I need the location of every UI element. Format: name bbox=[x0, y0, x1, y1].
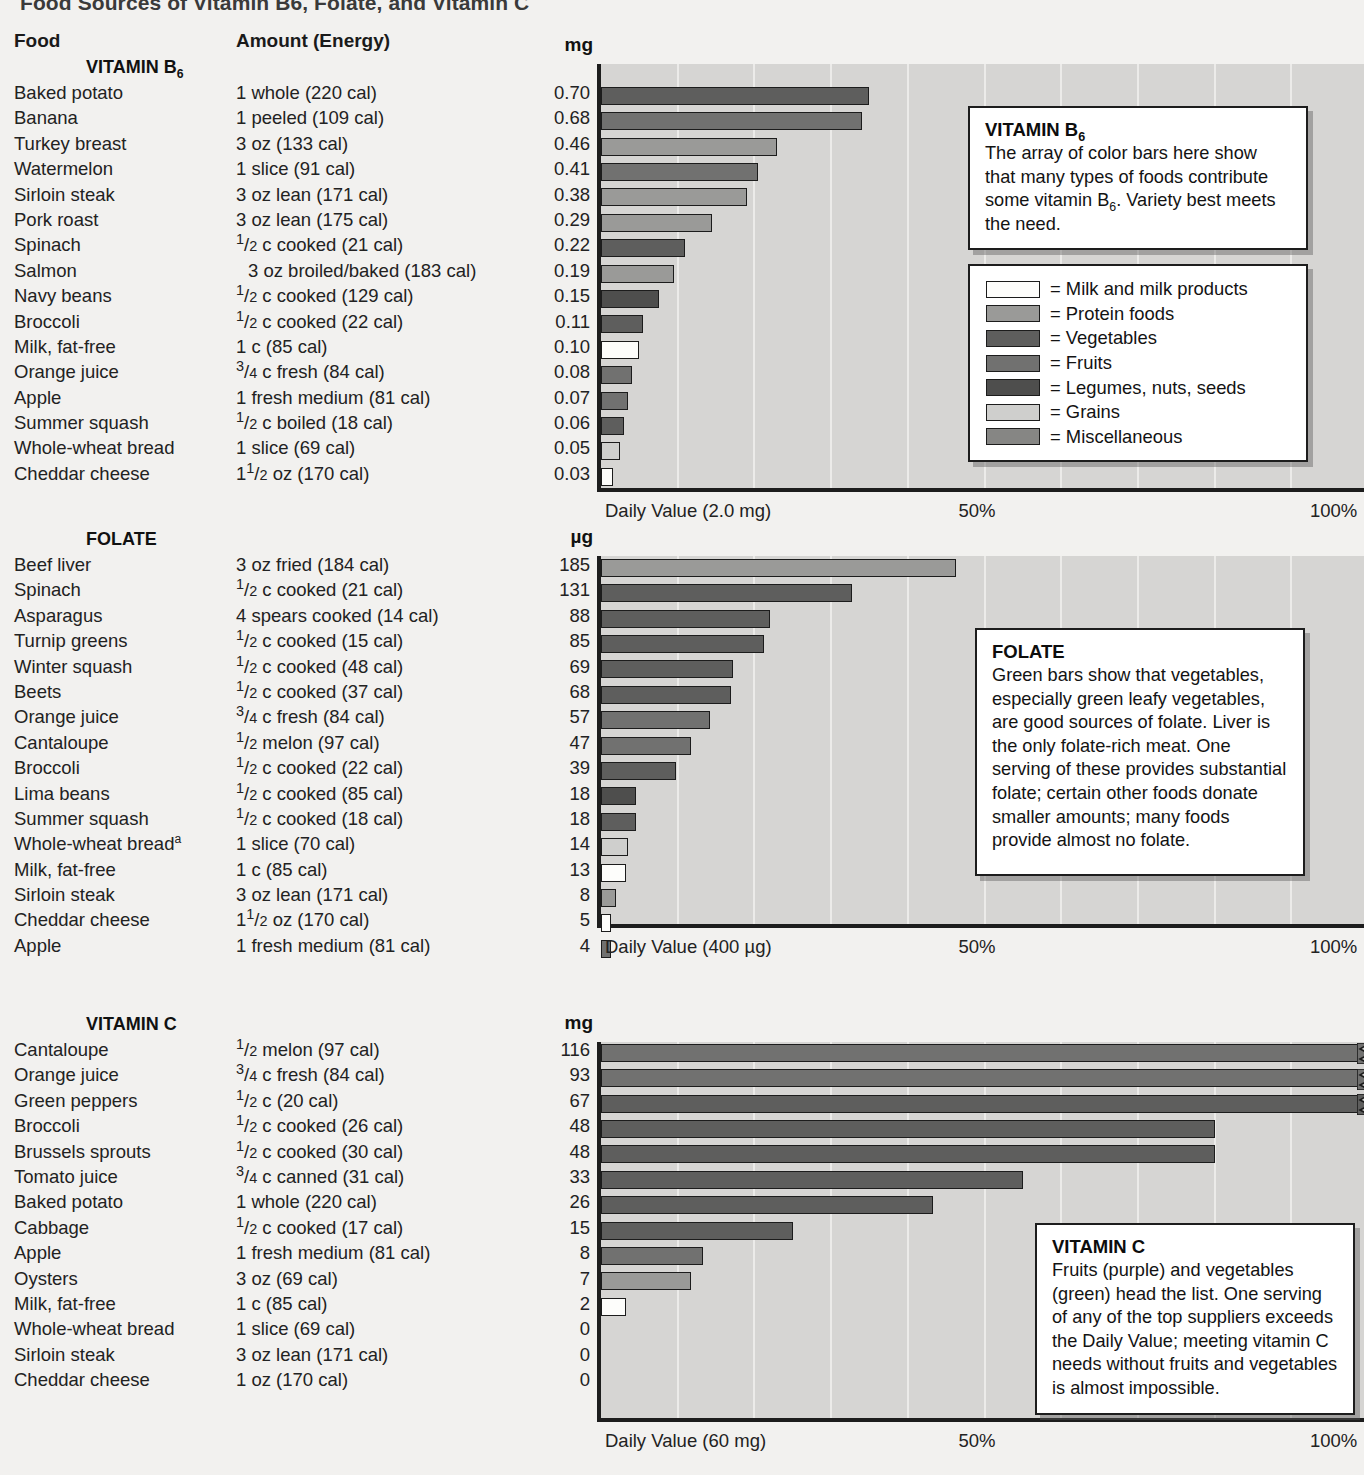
food-name: Orange juice bbox=[14, 704, 119, 729]
table-row: Broccoli1/2 c cooked (22 cal)39 bbox=[0, 755, 590, 780]
food-amount: 1/2 melon (97 cal) bbox=[236, 730, 380, 757]
nutrient-value: 0.06 bbox=[510, 410, 590, 435]
bar bbox=[601, 188, 747, 206]
nutrient-value: 7 bbox=[510, 1266, 590, 1291]
bar bbox=[601, 1298, 626, 1316]
nutrient-value: 39 bbox=[510, 755, 590, 780]
table-row: Broccoli1/2 c cooked (22 cal)0.11 bbox=[0, 309, 590, 334]
food-name: Apple bbox=[14, 933, 61, 958]
daily-value-label: Daily Value (60 mg) bbox=[605, 1430, 766, 1452]
legend-swatch-legumes bbox=[986, 379, 1040, 396]
legend-swatch-vegetables bbox=[986, 330, 1040, 347]
table-row: Tomato juice3/4 c canned (31 cal)33 bbox=[0, 1164, 590, 1189]
group-title: VITAMIN C bbox=[0, 1013, 590, 1037]
nutrient-value: 14 bbox=[510, 831, 590, 856]
nutrient-value: 116 bbox=[510, 1037, 590, 1062]
unit-label: mg bbox=[533, 34, 593, 56]
food-amount: 3/4 c fresh (84 cal) bbox=[236, 1062, 385, 1089]
nutrient-value: 0.46 bbox=[510, 131, 590, 156]
table-row: Turnip greens1/2 c cooked (15 cal)85 bbox=[0, 628, 590, 653]
nutrient-value: 0.22 bbox=[510, 232, 590, 257]
nutrient-value: 0.10 bbox=[510, 334, 590, 359]
nutrient-value: 2 bbox=[510, 1291, 590, 1316]
bar bbox=[601, 1069, 1358, 1087]
table-row: Lima beans1/2 c cooked (85 cal)18 bbox=[0, 781, 590, 806]
legend-item: = Miscellaneous bbox=[986, 425, 1292, 450]
food-name: Winter squash bbox=[14, 654, 132, 679]
food-name: Sirloin steak bbox=[14, 1342, 115, 1367]
bar bbox=[601, 711, 710, 729]
food-name: Sirloin steak bbox=[14, 882, 115, 907]
bar bbox=[601, 468, 613, 486]
legend-item: = Legumes, nuts, seeds bbox=[986, 375, 1292, 400]
bar bbox=[601, 635, 764, 653]
bar bbox=[601, 1145, 1215, 1163]
food-amount: 3 oz lean (175 cal) bbox=[236, 207, 388, 232]
food-name: Cantaloupe bbox=[14, 1037, 109, 1062]
chart-page: Food Sources of Vitamin B6, Folate, and … bbox=[0, 0, 1364, 1475]
legend-swatch-fruits bbox=[986, 355, 1040, 372]
daily-value-label: Daily Value (400 µg) bbox=[605, 936, 772, 958]
table-row: Spinach1/2 c cooked (21 cal)0.22 bbox=[0, 232, 590, 257]
nutrient-value: 0.70 bbox=[510, 80, 590, 105]
food-name: Summer squash bbox=[14, 806, 149, 831]
group-title: FOLATE bbox=[0, 528, 590, 552]
nutrient-value: 0.11 bbox=[510, 309, 590, 334]
food-name: Baked potato bbox=[14, 1189, 123, 1214]
food-amount: 1/2 c cooked (129 cal) bbox=[236, 283, 414, 310]
table-row: Asparagus4 spears cooked (14 cal)88 bbox=[0, 603, 590, 628]
bar bbox=[601, 813, 636, 831]
legend-swatch-milk bbox=[986, 281, 1040, 298]
food-amount: 3 oz lean (171 cal) bbox=[236, 882, 388, 907]
bar bbox=[601, 1196, 933, 1214]
bar bbox=[601, 889, 616, 907]
nutrient-value: 5 bbox=[510, 907, 590, 932]
nutrient-value: 0.68 bbox=[510, 105, 590, 130]
nutrient-value: 18 bbox=[510, 781, 590, 806]
table-row: Pork roast3 oz lean (175 cal)0.29 bbox=[0, 207, 590, 232]
nutrient-value: 57 bbox=[510, 704, 590, 729]
table-row: Turkey breast3 oz (133 cal)0.46 bbox=[0, 131, 590, 156]
table-row: Navy beans1/2 c cooked (129 cal)0.15 bbox=[0, 283, 590, 308]
food-amount: 1/2 c cooked (37 cal) bbox=[236, 679, 403, 706]
food-name: Apple bbox=[14, 1240, 61, 1265]
nutrient-value: 0.19 bbox=[510, 258, 590, 283]
table-row: Winter squash1/2 c cooked (48 cal)69 bbox=[0, 654, 590, 679]
food-amount: 1 slice (69 cal) bbox=[236, 1316, 355, 1341]
bar bbox=[601, 214, 712, 232]
bar bbox=[601, 1222, 793, 1240]
page-title: Food Sources of Vitamin B6, Folate, and … bbox=[20, 0, 529, 15]
table-row: Green peppers1/2 c (20 cal)67 bbox=[0, 1088, 590, 1113]
table-row: Apple1 fresh medium (81 cal)0.07 bbox=[0, 385, 590, 410]
food-amount: 1 fresh medium (81 cal) bbox=[236, 933, 430, 958]
table-row: Cheddar cheese1 oz (170 cal)0 bbox=[0, 1367, 590, 1392]
legend-item: = Vegetables bbox=[986, 326, 1292, 351]
callout-heading: VITAMIN B6 bbox=[985, 119, 1292, 141]
food-amount: 1/2 c cooked (15 cal) bbox=[236, 628, 403, 655]
food-name: Watermelon bbox=[14, 156, 113, 181]
food-name: Beef liver bbox=[14, 552, 91, 577]
callout-body: Green bars show that vegetables, especia… bbox=[992, 664, 1289, 853]
food-name: Cheddar cheese bbox=[14, 907, 150, 932]
callout-body: Fruits (purple) and vegetables (green) h… bbox=[1052, 1259, 1339, 1401]
table-row: Apple1 fresh medium (81 cal)8 bbox=[0, 1240, 590, 1265]
legend-swatch-protein bbox=[986, 305, 1040, 322]
legend-label: = Milk and milk products bbox=[1050, 278, 1248, 300]
food-table: VITAMIN B6Baked potato1 whole (220 cal)0… bbox=[0, 56, 590, 486]
table-row: Summer squash1/2 c cooked (18 cal)18 bbox=[0, 806, 590, 831]
table-row: Summer squash1/2 c boiled (18 cal)0.06 bbox=[0, 410, 590, 435]
food-name: Whole-wheat bread bbox=[14, 435, 174, 460]
nutrient-value: 0.08 bbox=[510, 359, 590, 384]
nutrient-value: 93 bbox=[510, 1062, 590, 1087]
food-name: Milk, fat-free bbox=[14, 334, 116, 359]
table-row: Sirloin steak3 oz lean (171 cal)8 bbox=[0, 882, 590, 907]
nutrient-value: 8 bbox=[510, 882, 590, 907]
food-amount: 1 c (85 cal) bbox=[236, 1291, 328, 1316]
bar bbox=[601, 138, 777, 156]
food-name: Apple bbox=[14, 385, 61, 410]
legend-item: = Fruits bbox=[986, 351, 1292, 376]
food-name: Broccoli bbox=[14, 755, 80, 780]
bar bbox=[601, 787, 636, 805]
group-title: VITAMIN B6 bbox=[0, 56, 590, 80]
bar bbox=[601, 1247, 703, 1265]
